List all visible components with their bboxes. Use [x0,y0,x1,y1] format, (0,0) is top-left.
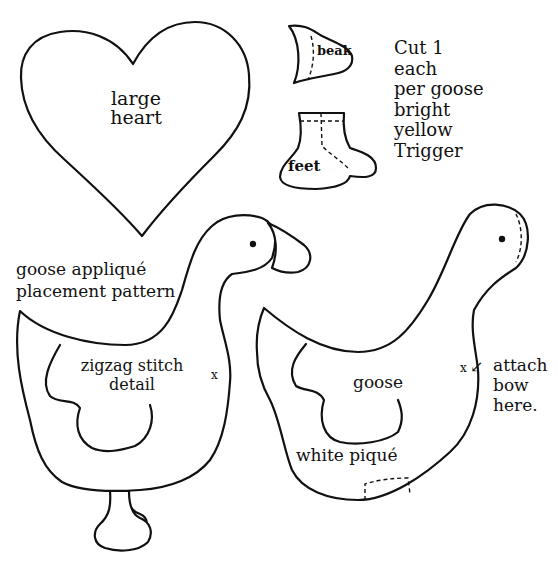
large-heart-shape [21,22,249,236]
cutting-instructions: Cut 1 each per goose bright yellow Trigg… [394,38,484,161]
left-goose-wing-label: zigzag stitch detail [62,356,202,394]
left-goose-wing-line2: detail [62,375,202,394]
left-goose-title: goose appliqué placement pattern [16,258,175,302]
right-goose-eye [499,236,505,242]
left-goose-front-leg [95,491,151,550]
bow-arrow-icon: ↙ [470,359,483,375]
feet-pattern-shape [280,113,376,189]
bow-note-line3: here. [493,395,547,415]
right-goose-bow-mark: x [460,362,467,374]
feet-label: feet [288,159,320,174]
left-goose-bow-mark: x [211,369,218,381]
instruction-line: bright [394,100,484,121]
left-goose-title-line1: goose appliqué [16,258,175,280]
bow-note-line1: attach [493,355,547,375]
right-goose-wing-label: goose [353,374,403,391]
left-goose-wing-line1: zigzag stitch [62,356,202,375]
heart-label: large heart [96,89,176,127]
instruction-line: Trigger [394,141,484,162]
bow-attach-note: attach bow here. [493,355,547,415]
instruction-line: each [394,59,484,80]
left-goose-eye [250,241,256,247]
instruction-line: per goose [394,79,484,100]
instruction-line: yellow [394,120,484,141]
instruction-line: Cut 1 [394,38,484,59]
left-goose-title-line2: placement pattern [16,280,175,302]
right-goose-fabric-label: white piqué [296,447,397,464]
heart-label-line2: heart [96,108,176,127]
bow-note-line2: bow [493,375,547,395]
beak-label: beak [317,44,352,57]
